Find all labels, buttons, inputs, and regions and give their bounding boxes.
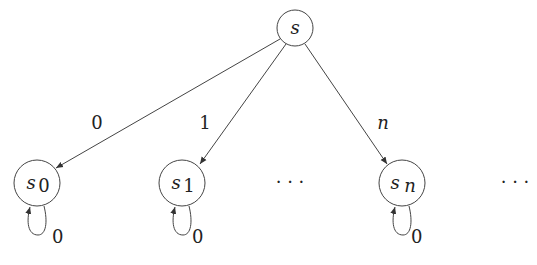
svg-text:n: n [404, 175, 416, 196]
node-s-label: s [290, 17, 299, 38]
svg-text:s: s [26, 172, 35, 193]
edge-label-1: 1 [199, 112, 210, 133]
edge-label-n: n [377, 112, 389, 133]
loop-label-s1: 0 [192, 226, 203, 247]
edge-s-sn: n [305, 44, 389, 164]
edge-s-s1: 1 [199, 44, 286, 164]
node-sn: s n 0 [379, 160, 425, 247]
edge-label-0: 0 [91, 112, 102, 133]
svg-text:1: 1 [183, 175, 194, 196]
loop-label-sn: 0 [411, 226, 422, 247]
node-s: s [277, 10, 313, 46]
ellipsis-1: · · · [276, 171, 305, 192]
svg-text:s: s [171, 172, 180, 193]
state-diagram: s 0 1 n s 0 0 s 1 0 · · · s n 0 · · · [0, 0, 537, 265]
loop-label-s0: 0 [52, 226, 63, 247]
ellipsis-2: · · · [501, 171, 530, 192]
node-s0: s 0 0 [14, 160, 63, 247]
svg-text:0: 0 [38, 175, 49, 196]
node-s1: s 1 0 [159, 160, 205, 247]
edge-s-s0: 0 [56, 39, 280, 168]
svg-text:s: s [390, 172, 399, 193]
